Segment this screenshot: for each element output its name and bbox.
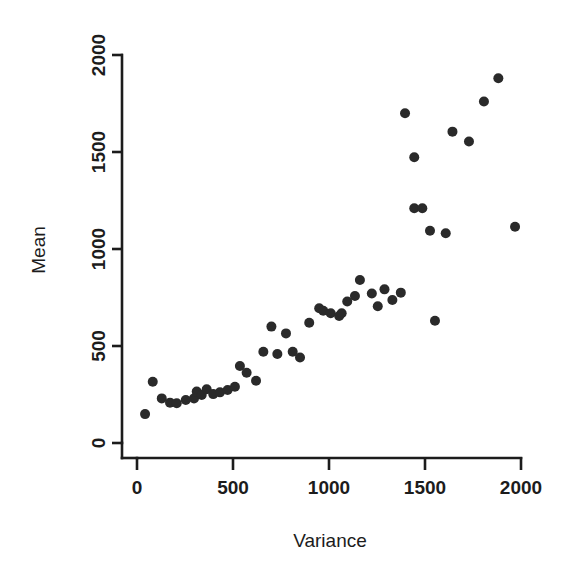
scatter-points-layer [140, 73, 520, 419]
data-point [396, 288, 406, 298]
data-point [425, 226, 435, 236]
data-point [295, 352, 305, 362]
y-axis-tick-labels: 0500100015002000 [88, 34, 109, 448]
data-point [304, 318, 314, 328]
data-point [148, 377, 158, 387]
data-point [355, 275, 365, 285]
data-point [230, 382, 240, 392]
data-point [172, 398, 182, 408]
data-point [447, 127, 457, 137]
data-point [281, 328, 291, 338]
y-tick-label-500: 500 [88, 330, 109, 362]
x-tick-label-1000: 1000 [308, 477, 350, 498]
data-point [272, 349, 282, 359]
y-tick-label-1500: 1500 [88, 131, 109, 173]
data-point [140, 409, 150, 419]
x-tick-label-2000: 2000 [500, 477, 542, 498]
data-point [510, 222, 520, 232]
data-point [258, 347, 268, 357]
data-point [417, 203, 427, 213]
data-point [464, 137, 474, 147]
x-tick-label-0: 0 [132, 477, 143, 498]
data-point [367, 288, 377, 298]
data-point [337, 308, 347, 318]
data-point [350, 291, 360, 301]
data-point [373, 301, 383, 311]
data-point [493, 73, 503, 83]
data-point [326, 308, 336, 318]
x-axis-tick-labels: 0500100015002000 [132, 477, 542, 498]
x-tick-label-1500: 1500 [404, 477, 446, 498]
data-point [387, 295, 397, 305]
data-point [430, 316, 440, 326]
data-point [441, 228, 451, 238]
y-axis-title: Mean [28, 226, 49, 274]
y-tick-label-1000: 1000 [88, 228, 109, 270]
y-tick-label-2000: 2000 [88, 34, 109, 76]
y-tick-label-0: 0 [88, 438, 109, 449]
data-point [409, 152, 419, 162]
data-point [400, 108, 410, 118]
data-point [266, 322, 276, 332]
data-point [479, 97, 489, 107]
scatter-plot-figure: 0500100015002000 0500100015002000 Mean V… [0, 0, 570, 576]
data-point [251, 376, 261, 386]
data-point [242, 368, 252, 378]
x-tick-label-500: 500 [217, 477, 249, 498]
x-axis-title: Variance [293, 530, 367, 551]
plot-canvas: 0500100015002000 0500100015002000 Mean V… [0, 0, 570, 576]
data-point [379, 284, 389, 294]
